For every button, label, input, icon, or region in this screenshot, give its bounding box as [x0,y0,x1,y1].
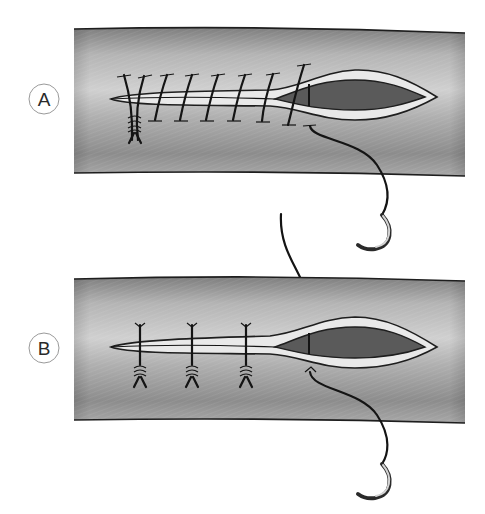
needle-a [358,215,390,249]
panel-label-a: A [29,84,59,114]
panel-b: B [29,214,465,498]
panel-label-b-text: B [38,338,51,359]
panel-label-b: B [29,333,59,363]
needle-b [358,464,390,498]
suture-diagram: A [0,0,485,514]
panel-label-a-text: A [38,89,51,110]
panel-a: A [29,28,465,250]
